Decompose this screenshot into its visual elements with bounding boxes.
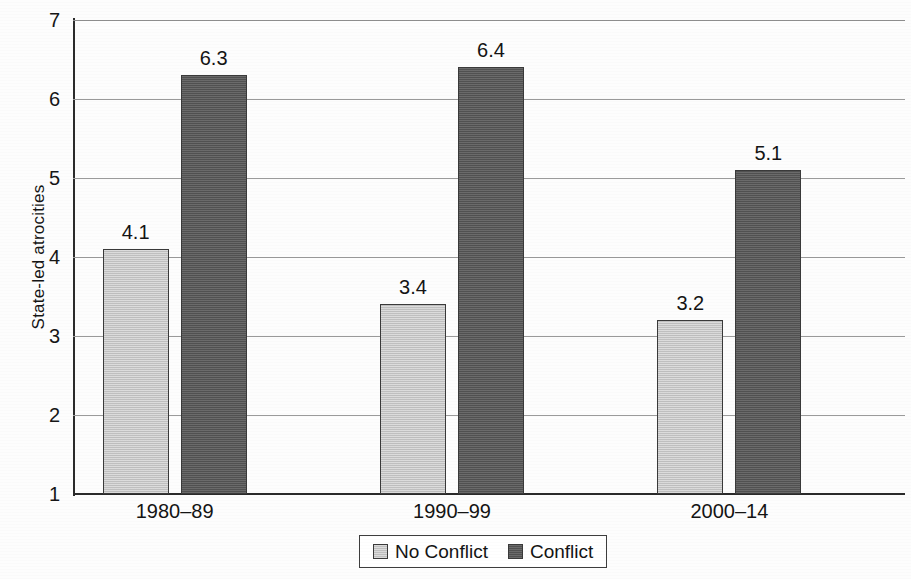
bar-value-label: 6.4	[477, 39, 505, 62]
legend-item-no-conflict[interactable]: No Conflict	[373, 541, 488, 563]
bar-conflict-2000–14[interactable]	[735, 170, 801, 494]
y-axis-tick-label: 4	[14, 246, 60, 269]
legend: No ConflictConflict	[359, 535, 607, 568]
legend-item-label: Conflict	[530, 541, 593, 563]
y-axis-tick-label: 1	[14, 483, 60, 506]
y-axis-tick-label: 6	[14, 88, 60, 111]
legend-item-conflict[interactable]: Conflict	[508, 541, 593, 563]
bar-conflict-1990–99[interactable]	[458, 67, 524, 494]
legend-item-label: No Conflict	[395, 541, 488, 563]
x-axis-tick-label: 1980–89	[136, 500, 214, 523]
bar-value-label: 5.1	[754, 142, 782, 165]
y-axis-tick-label: 2	[14, 404, 60, 427]
y-axis-tick-label: 7	[14, 9, 60, 32]
legend-swatch-icon	[508, 544, 523, 559]
x-axis-tick-label: 2000–14	[690, 500, 768, 523]
bar-value-label: 6.3	[200, 47, 228, 70]
bar-no-conflict-2000–14[interactable]	[657, 320, 723, 494]
plot-area: 4.16.33.46.43.25.1	[73, 20, 905, 494]
x-axis-tick-label: 1990–99	[413, 500, 491, 523]
bar-value-label: 4.1	[122, 221, 150, 244]
bar-value-label: 3.4	[399, 276, 427, 299]
gridline	[73, 20, 905, 21]
bar-value-label: 3.2	[676, 292, 704, 315]
y-axis-tick-label: 5	[14, 167, 60, 190]
legend-swatch-icon	[373, 544, 388, 559]
bar-no-conflict-1980–89[interactable]	[103, 249, 169, 494]
y-axis-tick-labels: 1234567	[0, 20, 60, 494]
bar-conflict-1980–89[interactable]	[181, 75, 247, 494]
y-axis-tick-label: 3	[14, 325, 60, 348]
bar-no-conflict-1990–99[interactable]	[380, 304, 446, 494]
bar-chart: State-led atrocities 1234567 4.16.33.46.…	[0, 0, 911, 579]
